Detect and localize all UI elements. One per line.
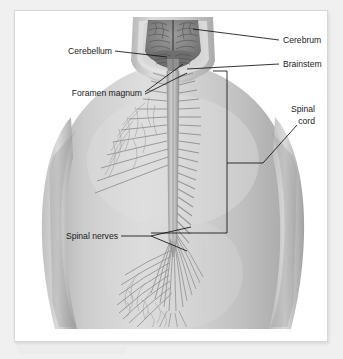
label-spinal-cord-line1: Spinal xyxy=(291,104,315,114)
anatomy-illustration: Cerebrum Brainstem Spinal cord Cerebellu… xyxy=(15,11,327,341)
figure-panel: Cerebrum Brainstem Spinal cord Cerebellu… xyxy=(14,10,328,342)
label-brainstem: Brainstem xyxy=(283,59,322,69)
label-spinal-cord-line2: cord xyxy=(298,116,315,126)
caption-strip xyxy=(18,347,126,354)
label-foramen-magnum: Foramen magnum xyxy=(72,88,142,98)
figure-root: Cerebrum Brainstem Spinal cord Cerebellu… xyxy=(0,0,343,359)
label-cerebellum: Cerebellum xyxy=(68,46,112,56)
label-spinal-nerves: Spinal nerves xyxy=(66,231,118,241)
label-cerebrum: Cerebrum xyxy=(283,35,321,45)
